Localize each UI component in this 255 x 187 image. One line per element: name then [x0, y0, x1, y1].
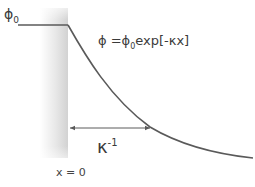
charged-wall — [40, 8, 68, 158]
formula-right: exp[-κx] — [135, 33, 189, 48]
debye-length-label: κ-1 — [97, 136, 118, 157]
decay-formula: ϕ =ϕ0exp[-κx] — [98, 33, 189, 51]
diagram-canvas — [0, 0, 255, 187]
phi-symbol: ϕ — [4, 6, 13, 22]
kappa-superscript: -1 — [108, 137, 118, 148]
phi0-axis-label: ϕ0 — [4, 6, 19, 25]
kappa-symbol: κ — [97, 136, 108, 157]
phi-subscript: 0 — [13, 15, 19, 25]
formula-left: ϕ =ϕ — [98, 33, 130, 48]
potential-decay-diagram: ϕ0 ϕ =ϕ0exp[-κx] κ-1 x = 0 — [0, 0, 255, 187]
x-origin-label: x = 0 — [56, 166, 86, 179]
